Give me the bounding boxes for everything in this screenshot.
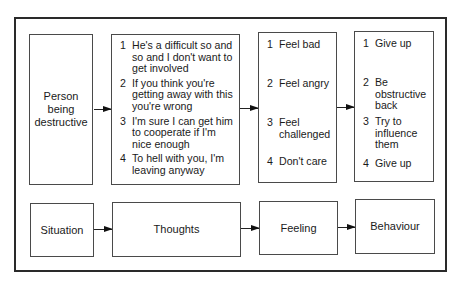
thoughts-label: Thoughts xyxy=(154,223,200,236)
thoughts-list-box: 1He's a difficult so and so and I don't … xyxy=(111,34,240,185)
situation-example-text: Person being destructive xyxy=(33,90,89,129)
behaviour-item-2: 2Be obstructive back xyxy=(363,77,433,116)
feeling-item-3: 3Feel challenged xyxy=(267,117,337,156)
arrow-situation-to-thoughts-label xyxy=(94,229,112,230)
behaviour-item-1: 1Give up xyxy=(363,38,433,77)
feeling-label-box: Feeling xyxy=(259,201,338,255)
arrow-thoughts-to-feeling-label xyxy=(241,228,259,229)
situation-label: Situation xyxy=(41,224,84,237)
feeling-list: 1Feel bad 2Feel angry 3Feel challenged 4… xyxy=(267,39,337,168)
behaviour-label: Behaviour xyxy=(370,220,420,233)
thoughts-list: 1He's a difficult so and so and I don't … xyxy=(120,40,238,177)
feeling-item-4: 4Don't care xyxy=(267,156,337,168)
arrow-feeling-to-behaviour xyxy=(337,107,354,108)
feeling-item-1: 1Feel bad xyxy=(267,39,337,78)
thought-item-2: 2If you think you're getting away with t… xyxy=(120,78,238,113)
behaviour-list: 1Give up 2Be obstructive back 3Try to in… xyxy=(363,38,433,169)
feeling-list-box: 1Feel bad 2Feel angry 3Feel challenged 4… xyxy=(258,32,337,183)
situation-example-box: Person being destructive xyxy=(29,34,93,185)
behaviour-item-4: 4Give up xyxy=(363,158,433,170)
arrow-thoughts-to-feeling xyxy=(240,108,258,109)
feeling-label: Feeling xyxy=(280,222,316,235)
thought-item-3: 3I'm sure I can get him to cooperate if … xyxy=(120,116,238,151)
behaviour-item-3: 3Try to influence them xyxy=(363,116,433,151)
thought-item-1: 1He's a difficult so and so and I don't … xyxy=(120,40,238,75)
arrow-situation-to-thoughts xyxy=(94,109,111,110)
behaviour-label-box: Behaviour xyxy=(355,199,435,254)
behaviour-list-box: 1Give up 2Be obstructive back 3Try to in… xyxy=(354,31,434,182)
situation-label-box: Situation xyxy=(30,203,94,257)
thoughts-label-box: Thoughts xyxy=(112,202,241,257)
thought-item-4: 4To hell with you, I'm leaving anyway xyxy=(120,153,238,176)
arrow-feeling-to-behaviour-label xyxy=(338,227,355,228)
feeling-item-2: 2Feel angry xyxy=(267,78,337,117)
